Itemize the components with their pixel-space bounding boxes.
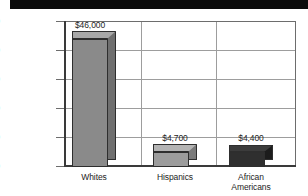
top-black-band bbox=[10, 0, 308, 9]
y-tick-mark bbox=[56, 108, 64, 109]
category-divider-1 bbox=[141, 22, 142, 165]
bar-hispanics bbox=[153, 144, 197, 167]
bar-value-label-hispanics: $4,700 bbox=[140, 133, 210, 143]
category-label-hispanics: Hispanics bbox=[141, 172, 209, 182]
y-axis-line bbox=[64, 21, 66, 167]
y-tick-mark bbox=[56, 50, 64, 51]
category-label-line-1: African bbox=[217, 172, 285, 182]
category-label-whites: Whites bbox=[60, 172, 128, 182]
y-tick-mark bbox=[56, 166, 64, 167]
bar-chart: $50,000 $40,000 $30,000 $20,000 $10,000 … bbox=[0, 9, 308, 196]
bar-african-americans bbox=[229, 145, 273, 167]
y-tick-mark bbox=[56, 79, 64, 80]
bar-front-face bbox=[72, 39, 108, 167]
bar-side-face bbox=[107, 31, 116, 160]
bar-value-label-african-americans: $4,400 bbox=[216, 133, 286, 143]
category-divider-2 bbox=[216, 22, 217, 165]
bar-front-face bbox=[229, 152, 265, 167]
bar-front-face bbox=[153, 152, 189, 167]
y-tick-mark bbox=[56, 137, 64, 138]
bar-whites bbox=[72, 31, 116, 167]
category-label-african-americans: African Americans bbox=[217, 172, 285, 192]
bar-value-label-whites: $46,000 bbox=[55, 20, 125, 30]
category-label-line-2: Americans bbox=[217, 182, 285, 192]
